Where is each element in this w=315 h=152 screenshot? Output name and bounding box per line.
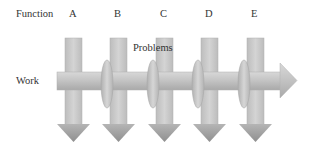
- problem-ellipse: [147, 60, 159, 108]
- down-arrow-icon: [148, 124, 181, 142]
- problem-ellipse: [192, 60, 204, 108]
- function-row-label: Function: [16, 8, 53, 20]
- function-label-e: E: [251, 8, 257, 20]
- work-row-label: Work: [16, 75, 39, 87]
- right-arrow-icon: [280, 63, 297, 98]
- problem-ellipse: [238, 60, 250, 108]
- function-label-d: D: [205, 8, 213, 20]
- function-label-a: A: [69, 8, 77, 20]
- problems-label: Problems: [133, 42, 173, 54]
- function-label-b: B: [114, 8, 121, 20]
- down-arrow-icon: [57, 124, 90, 142]
- problem-ellipse: [101, 60, 113, 108]
- down-arrow-icon: [102, 124, 135, 142]
- down-arrow-icon: [239, 124, 272, 142]
- down-arrow-icon: [193, 124, 226, 142]
- function-work-diagram: [0, 0, 315, 152]
- function-label-c: C: [160, 8, 167, 20]
